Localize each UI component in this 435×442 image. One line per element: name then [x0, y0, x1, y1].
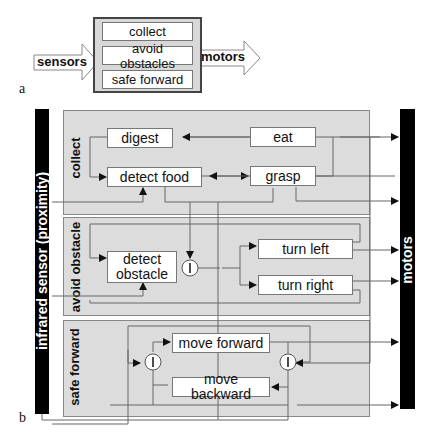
panel-b-label: b	[19, 410, 26, 426]
node-digest: digest	[107, 128, 173, 148]
node-grasp: grasp	[250, 166, 316, 186]
node-move-backward: move backward	[172, 377, 270, 397]
node-move-forward: move forward	[172, 333, 270, 353]
node-detect-food: detect food	[107, 167, 202, 187]
node-detect-obstacle: detect obstacle	[107, 251, 177, 283]
node-turn-left: turn left	[258, 239, 353, 259]
node-eat: eat	[250, 127, 316, 147]
node-turn-right: turn right	[258, 275, 353, 295]
